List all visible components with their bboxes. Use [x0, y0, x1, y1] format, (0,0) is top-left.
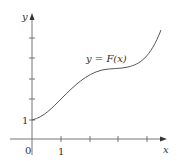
- x-axis-label: x: [163, 144, 169, 155]
- origin-label: 0: [25, 145, 31, 156]
- y-axis-arrow-icon: [30, 13, 35, 20]
- chart: y x 0 1 1 y = F(x): [0, 0, 177, 161]
- x-tick-label-1: 1: [58, 146, 64, 157]
- curve-label: y = F(x): [85, 53, 127, 64]
- curve-F: [32, 30, 161, 120]
- x-axis-arrow-icon: [160, 137, 167, 142]
- y-axis-label: y: [21, 11, 28, 22]
- y-tick-label-1: 1: [22, 115, 28, 126]
